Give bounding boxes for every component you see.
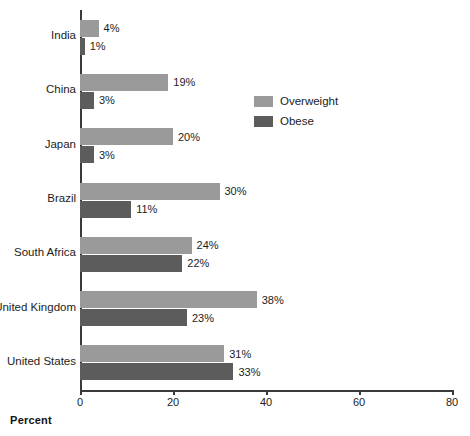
bar-row: 31% [80,345,452,362]
bar-overweight [80,237,192,254]
category-label: Japan [0,138,76,150]
bar-value-label: 20% [173,131,200,143]
bar-obese [80,92,94,109]
category-label: China [0,83,76,95]
x-tick-mark [266,390,268,395]
bar-row: 1% [80,38,452,55]
x-tick-mark [452,390,454,395]
x-tick-mark [359,390,361,395]
bar-row: 19% [80,74,452,91]
bar-value-label: 1% [85,40,106,52]
bar-value-label: 3% [94,149,115,161]
legend-swatch-obese [254,116,273,127]
legend-label-obese: Obese [280,115,314,127]
bar-overweight [80,74,168,91]
bar-value-label: 30% [220,185,247,197]
bar-row: 38% [80,291,452,308]
x-tick-label: 80 [446,396,458,408]
category-label: India [0,29,76,41]
bar-obese [80,146,94,163]
bar-row: 30% [80,183,452,200]
legend-label-overweight: Overweight [280,95,338,107]
bar-obese [80,309,187,326]
bar-value-label: 33% [233,366,260,378]
bar-value-label: 23% [187,312,214,324]
bar-value-label: 4% [99,22,120,34]
bar-row: 3% [80,146,452,163]
category-label: United Kingdom [0,301,76,313]
bar-obese [80,255,182,272]
overweight-obese-bar-chart: India4%1%China19%3%Japan20%3%Brazil30%11… [0,0,470,436]
chart-legend: Overweight Obese [254,93,338,133]
bar-row: 4% [80,20,452,37]
bar-value-label: 11% [131,203,157,215]
bar-value-label: 3% [94,94,115,106]
bar-value-label: 19% [168,76,195,88]
x-tick-label: 0 [77,396,83,408]
bar-obese [80,363,233,380]
bar-value-label: 31% [224,348,251,360]
category-label: Brazil [0,192,76,204]
legend-item-overweight: Overweight [254,93,338,109]
x-axis-title: Percent [0,414,470,426]
bar-value-label: 24% [192,239,219,251]
bar-overweight [80,128,173,145]
bar-row: 22% [80,255,452,272]
bar-overweight [80,20,99,37]
category-label: United States [0,355,76,367]
x-tick-mark [80,390,82,395]
category-label: South Africa [0,246,76,258]
x-axis-title-text: Percent [10,414,52,426]
bar-overweight [80,345,224,362]
bar-value-label: 22% [182,257,209,269]
bar-row: 23% [80,309,452,326]
bar-value-label: 38% [257,294,284,306]
bar-overweight [80,291,257,308]
x-tick-label: 60 [353,396,365,408]
x-tick-label: 40 [260,396,272,408]
bar-row: 11% [80,201,452,218]
legend-item-obese: Obese [254,113,338,129]
legend-swatch-overweight [254,96,273,107]
bar-overweight [80,183,220,200]
x-tick-mark [173,390,175,395]
bar-obese [80,201,131,218]
x-tick-label: 20 [167,396,179,408]
bar-row: 24% [80,237,452,254]
bar-row: 33% [80,363,452,380]
